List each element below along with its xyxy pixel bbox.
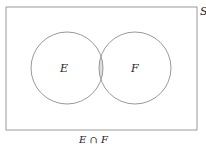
caption: E ∩ F: [78, 134, 109, 145]
set-e-label: E: [59, 62, 68, 75]
sample-space-label: S: [200, 5, 206, 18]
set-f-label: F: [130, 62, 139, 75]
venn-diagram: E F S E ∩ F: [0, 0, 206, 153]
